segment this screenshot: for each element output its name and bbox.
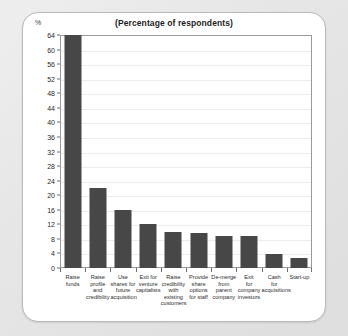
x-axis-tick-mark bbox=[136, 268, 137, 272]
x-axis-category-label: Raisefunds bbox=[60, 274, 85, 287]
x-axis-category-label: Exitforcompanyinvestors bbox=[236, 274, 261, 300]
bar[interactable] bbox=[64, 35, 81, 268]
x-axis-category-label: Raisecredibilitywithexistingcustomers bbox=[161, 274, 186, 307]
y-axis-tick-label: 44 bbox=[47, 104, 55, 111]
y-axis-tick-label: 60 bbox=[47, 46, 55, 53]
x-axis-labels: RaisefundsRaiseprofileandcredibilityUses… bbox=[60, 274, 312, 330]
y-axis: 0481216202428323640444852566064 bbox=[33, 35, 60, 268]
bar[interactable] bbox=[190, 233, 207, 268]
y-axis-tick-label: 28 bbox=[47, 163, 55, 170]
bar[interactable] bbox=[215, 236, 232, 268]
bar[interactable] bbox=[266, 254, 283, 268]
y-axis-tick-label: 36 bbox=[47, 133, 55, 140]
y-axis-tick-label: 16 bbox=[47, 206, 55, 213]
bar-slot bbox=[85, 35, 110, 268]
y-axis-tick-label: 24 bbox=[47, 177, 55, 184]
y-axis-tick-label: 52 bbox=[47, 75, 55, 82]
x-axis-category-label: Exit forventurecapitalists bbox=[136, 274, 161, 294]
screenshot-root: % (Percentage of respondents) 0481216202… bbox=[0, 0, 348, 336]
bars-layer bbox=[60, 35, 312, 268]
bar-slot bbox=[236, 35, 261, 268]
y-axis-tick-label: 8 bbox=[51, 235, 55, 242]
y-axis-tick-label: 4 bbox=[51, 250, 55, 257]
bar[interactable] bbox=[89, 188, 106, 268]
chart-card: % (Percentage of respondents) 0481216202… bbox=[22, 12, 326, 322]
bar[interactable] bbox=[165, 232, 182, 268]
x-axis-ticks bbox=[60, 268, 312, 273]
bar[interactable] bbox=[114, 210, 131, 268]
chart-title: (Percentage of respondents) bbox=[23, 18, 325, 28]
bar[interactable] bbox=[291, 258, 308, 268]
bar-slot bbox=[186, 35, 211, 268]
bar-slot bbox=[60, 35, 85, 268]
y-axis-tick-label: 12 bbox=[47, 221, 55, 228]
bar-slot bbox=[262, 35, 287, 268]
x-axis-tick-mark bbox=[60, 268, 61, 272]
x-axis-tick-mark bbox=[311, 268, 312, 272]
x-axis-tick-mark bbox=[262, 268, 263, 272]
x-axis-tick-mark bbox=[85, 268, 86, 272]
y-axis-tick-label: 56 bbox=[47, 61, 55, 68]
x-axis-category-label: Cashforacquisitions bbox=[262, 274, 287, 294]
x-axis-category-label: Useshares forfutureacquisition bbox=[110, 274, 135, 300]
y-axis-tick-label: 20 bbox=[47, 192, 55, 199]
x-axis-tick-mark bbox=[287, 268, 288, 272]
y-axis-tick-label: 40 bbox=[47, 119, 55, 126]
y-axis-tick-label: 32 bbox=[47, 148, 55, 155]
x-axis-category-label: De-mergefromparentcompany bbox=[211, 274, 236, 300]
x-axis-tick-mark bbox=[236, 268, 237, 272]
x-axis-tick-mark bbox=[186, 268, 187, 272]
x-axis-category-label: Provideshareoptionsfor staff bbox=[186, 274, 211, 300]
bar-slot bbox=[110, 35, 135, 268]
y-axis-tick-label: 0 bbox=[51, 265, 55, 272]
y-axis-tick-label: 48 bbox=[47, 90, 55, 97]
x-axis-tick-mark bbox=[161, 268, 162, 272]
bar[interactable] bbox=[240, 236, 257, 268]
bar-slot bbox=[211, 35, 236, 268]
bar-slot bbox=[161, 35, 186, 268]
x-axis-category-label: Raiseprofileandcredibility bbox=[85, 274, 110, 300]
y-axis-tick-label: 64 bbox=[47, 32, 55, 39]
x-axis-category-label: Start-up bbox=[287, 274, 312, 281]
x-axis-tick-mark bbox=[110, 268, 111, 272]
bar[interactable] bbox=[140, 224, 157, 268]
bar-slot bbox=[287, 35, 312, 268]
x-axis-tick-mark bbox=[211, 268, 212, 272]
bar-slot bbox=[136, 35, 161, 268]
